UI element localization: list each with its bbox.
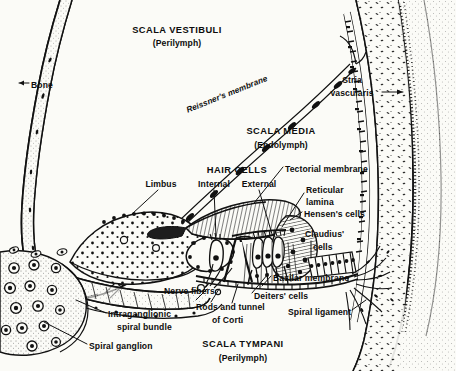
label-deiters-cells: Deiters' cells <box>254 291 308 302</box>
label-bone: Bone <box>31 80 53 91</box>
label-hensens-cells: Hensen's cells <box>304 209 365 220</box>
label-scala-tympani: SCALA TYMPANI <box>202 339 283 350</box>
label-claudius-cells-line1: Claudius' <box>305 229 344 240</box>
label-scala-vestibuli-fluid: (Perilymph) <box>153 38 201 49</box>
label-reticular-lamina-line1: Reticular <box>306 185 344 196</box>
label-limbus: Limbus <box>145 179 176 190</box>
label-stria-vascularis-line2: vascularis <box>330 88 373 99</box>
label-hair-cells-internal: Internal <box>198 179 230 190</box>
label-tectorial-membrane: Tectorial membrane <box>285 164 368 175</box>
label-spiral-ganglion: Spiral ganglion <box>89 341 153 352</box>
label-spiral-ligament: Spiral ligament <box>288 307 351 318</box>
label-claudius-cells-line2: cells <box>313 242 333 253</box>
cochlea-cross-section-figure: SCALA VESTIBULI (Perilymph) Bone Reissne… <box>0 0 456 371</box>
label-rods-and-tunnel-line2: of Corti <box>212 315 243 326</box>
label-scala-media: SCALA MEDIA <box>246 126 315 137</box>
label-scala-vestibuli: SCALA VESTIBULI <box>132 25 222 36</box>
label-rods-and-tunnel-line1: Rods and tunnel <box>196 302 265 313</box>
label-scala-tympani-fluid: (Perilymph) <box>219 353 267 364</box>
label-reticular-lamina-line2: lamina <box>306 197 334 208</box>
label-nerve-fibers: Nerve fibers <box>164 286 215 297</box>
label-hair-cells-external: External <box>242 179 277 190</box>
label-basilar-membrane: Basilar membrane <box>273 273 349 284</box>
label-intraganglionic-line1: Intraganglionic <box>108 309 171 320</box>
label-hair-cells: HAIR CELLS <box>207 165 267 176</box>
label-intraganglionic-line2: spiral bundle <box>117 322 172 333</box>
label-stria-vascularis-line1: Stria <box>342 75 362 86</box>
label-scala-media-fluid: (Endolymph) <box>254 140 308 151</box>
